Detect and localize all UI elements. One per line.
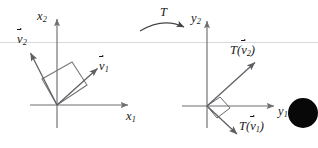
vector-label-v2: v2	[17, 33, 27, 46]
axis-label-y2-sub: 2	[197, 17, 201, 26]
transform-arrow-curve	[140, 23, 184, 31]
vector-label-v2-sub: 2	[23, 38, 27, 47]
axis-label-x1-sub: 1	[132, 115, 136, 124]
vector-T-of-v1	[207, 106, 237, 134]
transform-label-T: T	[160, 6, 167, 19]
vector-label-v1: v1	[99, 60, 109, 73]
vector-label-T-of-v1-prefix: T(	[239, 119, 250, 133]
domain-plane	[30, 19, 128, 128]
axis-label-y1-main: y	[278, 104, 284, 118]
vector-T-of-v2	[207, 63, 255, 107]
axis-label-x2-sub: 2	[43, 15, 47, 24]
vector-v1	[57, 69, 98, 106]
vector-label-T-of-v2-prefix: T(	[230, 43, 241, 57]
axis-label-y2: y2	[191, 12, 201, 25]
vector-label-T-of-v2-sub: 2	[247, 49, 251, 58]
axis-label-x2-main: x	[37, 9, 43, 23]
vector-label-T-of-v1-sub: 1	[256, 125, 260, 134]
figure-root: x2 x1 v1 v2 T y2 y1 T(v2) T(v1)	[0, 0, 318, 148]
axis-label-x1-main: x	[126, 109, 132, 123]
vector-v2	[31, 53, 58, 105]
vector-label-T-of-v1: T(v1)	[239, 120, 264, 133]
black-disc	[288, 98, 318, 128]
vector-label-T-of-v2: T(v2)	[230, 44, 255, 57]
vector-label-T-of-v2-main: v	[241, 44, 247, 57]
transform-arrow	[140, 23, 184, 31]
right-angle-marker	[207, 97, 230, 118]
codomain-plane	[182, 21, 274, 134]
vector-label-v1-main: v	[99, 60, 105, 73]
figure-svg	[0, 0, 318, 148]
axis-label-y1-sub: 1	[284, 110, 288, 119]
axis-label-x2: x2	[37, 10, 47, 23]
axis-label-x1: x1	[126, 110, 136, 123]
vector-label-v1-sub: 1	[105, 65, 109, 74]
axis-label-y2-main: y	[191, 11, 197, 25]
vector-label-T-of-v1-suffix: )	[260, 119, 264, 133]
vector-label-v2-main: v	[17, 33, 23, 46]
vector-label-T-of-v1-main: v	[250, 120, 256, 133]
axis-label-y1: y1	[278, 105, 288, 118]
vector-label-T-of-v2-suffix: )	[251, 43, 255, 57]
